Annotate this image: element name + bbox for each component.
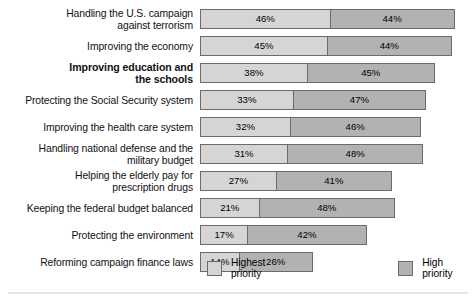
bar-value-label: 48%	[346, 148, 365, 159]
legend-item-high-priority: High priority	[398, 257, 476, 279]
bar-container: 31%48%	[200, 144, 476, 165]
legend-swatch-icon-highest-priority	[207, 261, 222, 276]
bar-segment-highest-priority: 31%	[200, 144, 288, 164]
bar-segment-highest-priority: 27%	[200, 171, 277, 191]
bar-container: 27%41%	[200, 171, 476, 192]
stacked-bar: 38%45%	[200, 63, 476, 83]
bar-value-label: 46%	[346, 121, 365, 132]
bar-segment-highest-priority: 46%	[200, 9, 331, 29]
stacked-bar: 32%46%	[200, 117, 476, 137]
category-label: Helping the elderly pay for prescription…	[0, 170, 200, 193]
chart-row: Protecting the environment17%42%	[0, 222, 476, 249]
bar-value-label: 21%	[220, 202, 239, 213]
bar-segment-high-priority: 45%	[307, 63, 435, 83]
bar-container: 21%48%	[200, 198, 476, 219]
bar-value-label: 48%	[317, 202, 336, 213]
bar-segment-highest-priority: 32%	[200, 117, 291, 137]
bar-value-label: 42%	[297, 229, 316, 240]
bar-value-label: 33%	[237, 94, 256, 105]
bar-value-label: 47%	[350, 94, 369, 105]
stacked-bar: 45%44%	[200, 36, 476, 56]
category-label: Protecting the environment	[0, 230, 200, 242]
bar-container: 38%45%	[200, 63, 476, 84]
legend-label-high-priority: High priority	[422, 257, 476, 279]
stacked-bar: 21%48%	[200, 198, 476, 218]
bar-container: 32%46%	[200, 117, 476, 138]
footer-divider	[8, 292, 468, 294]
category-label: Improving the economy	[0, 41, 200, 53]
bar-value-label: 17%	[215, 229, 234, 240]
bar-container: 33%47%	[200, 90, 476, 111]
chart-row: Improving education and the schools38%45…	[0, 60, 476, 87]
bar-value-label: 44%	[383, 13, 402, 24]
category-label: Improving education and the schools	[0, 62, 200, 85]
bar-value-label: 41%	[324, 175, 343, 186]
category-label: Handling the U.S. campaign against terro…	[0, 8, 200, 31]
chart-row: Improving the economy45%44%	[0, 33, 476, 60]
bar-value-label: 27%	[229, 175, 248, 186]
legend-item-highest-priority: Highest priority	[207, 257, 298, 279]
stacked-bar: 46%44%	[200, 9, 476, 29]
category-label: Improving the health care system	[0, 122, 200, 134]
bar-segment-high-priority: 41%	[276, 171, 392, 191]
bar-segment-highest-priority: 45%	[200, 36, 328, 56]
chart-row: Keeping the federal budget balanced21%48…	[0, 195, 476, 222]
stacked-bar: 27%41%	[200, 171, 476, 191]
stacked-bar: 33%47%	[200, 90, 476, 110]
bar-segment-high-priority: 44%	[330, 9, 455, 29]
chart-row: Handling the U.S. campaign against terro…	[0, 6, 476, 33]
bar-segment-highest-priority: 33%	[200, 90, 294, 110]
bar-segment-high-priority: 48%	[259, 198, 395, 218]
bar-container: 45%44%	[200, 36, 476, 57]
bar-segment-highest-priority: 17%	[200, 225, 248, 245]
bar-value-label: 38%	[244, 67, 263, 78]
category-label: Handling national defense and the milita…	[0, 143, 200, 166]
bar-container: 17%42%	[200, 225, 476, 246]
bar-segment-high-priority: 47%	[293, 90, 426, 110]
chart-legend: Highest priority High priority	[0, 257, 476, 279]
legend-label-highest-priority: Highest priority	[231, 257, 298, 279]
bar-value-label: 45%	[254, 40, 273, 51]
stacked-bar-chart: Handling the U.S. campaign against terro…	[0, 0, 476, 305]
chart-row: Helping the elderly pay for prescription…	[0, 168, 476, 195]
bar-segment-high-priority: 48%	[287, 144, 423, 164]
bar-segment-highest-priority: 21%	[200, 198, 260, 218]
bar-value-label: 44%	[380, 40, 399, 51]
chart-row: Improving the health care system32%46%	[0, 114, 476, 141]
chart-row: Handling national defense and the milita…	[0, 141, 476, 168]
bar-value-label: 32%	[236, 121, 255, 132]
category-label: Protecting the Social Security system	[0, 95, 200, 107]
bar-segment-highest-priority: 38%	[200, 63, 308, 83]
legend-swatch-icon-high-priority	[398, 261, 413, 276]
bar-value-label: 46%	[256, 13, 275, 24]
stacked-bar: 17%42%	[200, 225, 476, 245]
stacked-bar: 31%48%	[200, 144, 476, 164]
bar-segment-high-priority: 44%	[327, 36, 452, 56]
bar-value-label: 31%	[234, 148, 253, 159]
bar-container: 46%44%	[200, 9, 476, 30]
chart-row: Protecting the Social Security system33%…	[0, 87, 476, 114]
bar-value-label: 45%	[361, 67, 380, 78]
category-label: Keeping the federal budget balanced	[0, 203, 200, 215]
bar-segment-high-priority: 46%	[290, 117, 421, 137]
bar-segment-high-priority: 42%	[247, 225, 366, 245]
chart-rows: Handling the U.S. campaign against terro…	[0, 6, 476, 276]
